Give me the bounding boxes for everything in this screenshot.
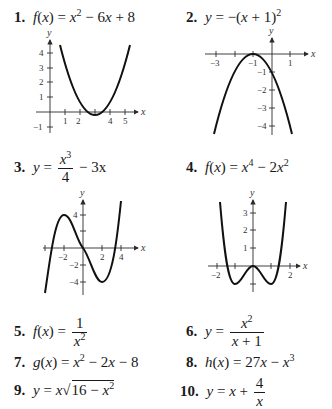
svg-text:4: 4 <box>119 252 124 262</box>
svg-text:x: x <box>140 106 146 117</box>
svg-text:x: x <box>310 48 316 59</box>
svg-text:2: 2 <box>100 252 105 262</box>
svg-text:4: 4 <box>39 48 44 58</box>
svg-text:−1: −1 <box>33 122 43 132</box>
svg-text:1: 1 <box>63 116 68 126</box>
svg-text:−3: −3 <box>257 103 267 113</box>
svg-text:3: 3 <box>243 208 248 218</box>
graph-2: x y −3 −1 1 −1 −2 −3 −4 <box>205 25 316 135</box>
svg-text:x: x <box>140 242 146 253</box>
graph-3: x y −2 2 4 4 −2 −4 <box>43 187 146 295</box>
curve <box>60 45 130 115</box>
svg-text:y: y <box>249 187 255 198</box>
svg-text:4: 4 <box>73 210 78 220</box>
svg-text:x: x <box>302 260 308 271</box>
svg-text:y: y <box>79 187 85 198</box>
svg-text:2: 2 <box>76 116 81 126</box>
svg-text:2: 2 <box>243 225 248 235</box>
svg-text:−3: −3 <box>210 58 220 68</box>
svg-text:2: 2 <box>39 77 44 87</box>
svg-text:3: 3 <box>39 63 44 73</box>
svg-text:2: 2 <box>288 270 293 280</box>
svg-text:1: 1 <box>288 58 293 68</box>
graph-4: x y −2 2 3 2 1 <box>208 187 308 292</box>
svg-text:−4: −4 <box>257 121 267 131</box>
svg-text:−1: −1 <box>257 67 267 77</box>
svg-text:−4: −4 <box>69 277 79 287</box>
svg-text:y: y <box>46 27 52 38</box>
svg-text:−2: −2 <box>257 85 267 95</box>
graph-1: x y 1 2 4 5 4 3 2 1 −1 <box>33 27 146 133</box>
svg-text:−2: −2 <box>69 260 79 270</box>
svg-text:y: y <box>268 25 274 36</box>
svg-text:1: 1 <box>39 92 44 102</box>
svg-text:−2: −2 <box>211 270 221 280</box>
svg-text:1: 1 <box>243 243 248 253</box>
svg-text:5: 5 <box>123 116 128 126</box>
svg-text:4: 4 <box>108 116 113 126</box>
svg-text:−2: −2 <box>58 252 68 262</box>
